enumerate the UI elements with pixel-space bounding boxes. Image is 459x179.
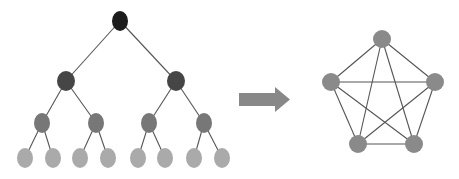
graph-nodes [322,30,444,153]
arrow-shaft [239,93,275,106]
graph-edge [382,39,435,82]
tree-node-level-3 [214,148,230,168]
tree-node-level-0 [112,11,128,31]
graph-node [349,135,367,153]
graph-node [322,73,340,91]
tree-edges [25,21,222,158]
graph-node [405,135,423,153]
graph-edge [331,82,358,144]
diagram-svg [0,0,459,179]
tree-node-level-2 [88,113,104,133]
graph-edge [331,39,382,82]
tree-node-level-3 [100,148,116,168]
tree-node-level-3 [45,148,61,168]
tree-node-level-2 [34,113,50,133]
graph-edge [331,82,414,144]
tree-node-level-3 [72,148,88,168]
tree-edge [66,21,120,81]
graph-edges [331,39,435,144]
diagram-canvas [0,0,459,179]
right-arrow-icon [239,87,290,112]
tree-node-level-3 [130,148,146,168]
arrow-head [275,87,290,112]
tree-node-level-1 [167,71,185,91]
graph-node [426,73,444,91]
graph-node [373,30,391,48]
tree-node-level-3 [186,148,202,168]
tree-edge [120,21,176,81]
tree-node-level-2 [141,113,157,133]
graph-edge [382,39,414,144]
tree-node-level-3 [157,148,173,168]
tree-node-level-2 [196,113,212,133]
tree-node-level-1 [57,71,75,91]
tree-node-level-3 [17,148,33,168]
graph-edge [414,82,435,144]
